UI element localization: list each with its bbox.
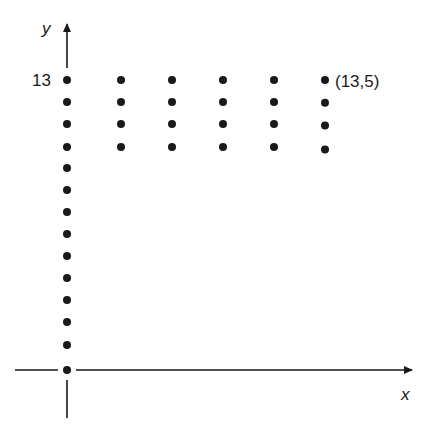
grid-dot	[321, 76, 329, 84]
axis-dot	[63, 296, 71, 304]
axis-dot	[63, 252, 71, 260]
axis-dot	[63, 186, 71, 194]
grid-dot	[117, 76, 125, 84]
grid-dot	[321, 145, 329, 153]
dots	[63, 76, 329, 374]
y-tick-13-label: 13	[32, 72, 51, 89]
diagram-canvas	[0, 0, 431, 439]
grid-dot	[117, 143, 125, 151]
grid-dot	[321, 99, 329, 107]
grid-dot	[168, 98, 176, 106]
axis-dot	[63, 208, 71, 216]
grid-dot	[270, 143, 278, 151]
grid-dot	[321, 122, 329, 130]
grid-dot	[219, 120, 227, 128]
axis-dot	[63, 76, 71, 84]
grid-dot	[168, 76, 176, 84]
axis-dot	[63, 98, 71, 106]
grid-dot	[270, 98, 278, 106]
grid-dot	[117, 120, 125, 128]
axis-dot	[63, 120, 71, 128]
grid-dot	[168, 143, 176, 151]
axis-dot	[63, 230, 71, 238]
grid-dot	[219, 98, 227, 106]
axis-dot	[63, 318, 71, 326]
grid-dot	[270, 76, 278, 84]
grid-dot	[117, 98, 125, 106]
axis-dot	[63, 341, 71, 349]
axis-dot	[63, 143, 71, 151]
grid-dot	[219, 143, 227, 151]
point-annotation-label: (13,5)	[335, 73, 379, 90]
y-axis-label: y	[42, 20, 51, 37]
grid-dot	[168, 120, 176, 128]
grid-dot	[219, 76, 227, 84]
axis-dot	[63, 164, 71, 172]
grid-dot	[270, 120, 278, 128]
axis-dot	[63, 274, 71, 282]
axis-dot	[63, 366, 71, 374]
x-axis-label: x	[401, 386, 410, 403]
